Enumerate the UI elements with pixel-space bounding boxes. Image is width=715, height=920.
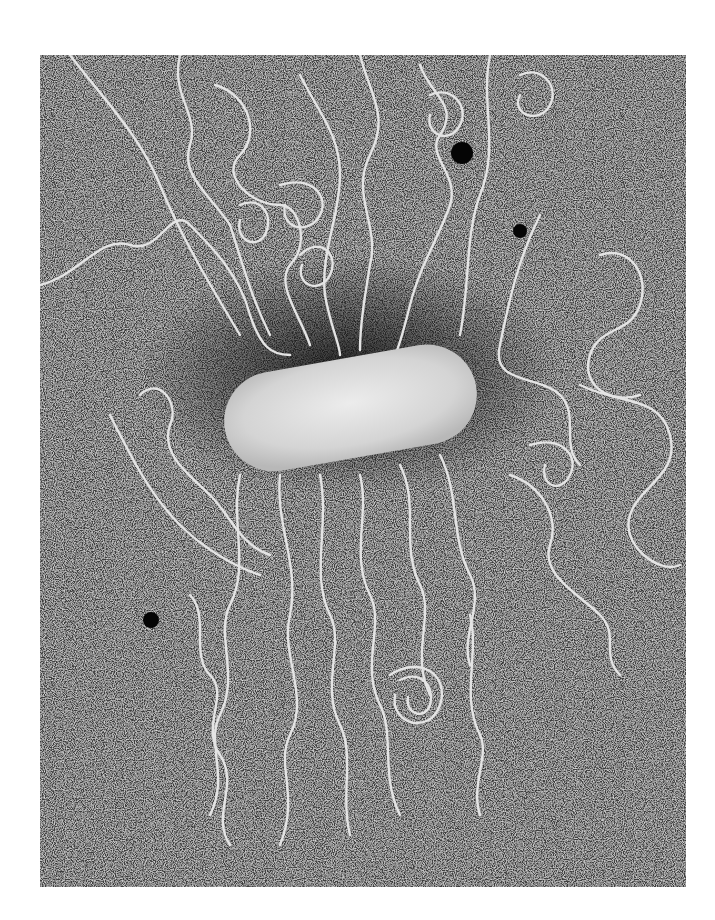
micrograph-image	[40, 55, 686, 887]
micrograph-frame	[40, 55, 686, 887]
